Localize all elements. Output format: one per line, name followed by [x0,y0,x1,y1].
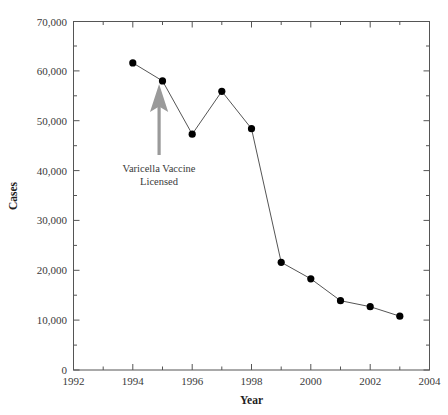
data-point [278,259,285,266]
annotation-line-2: Licensed [140,176,179,187]
y-tick-label: 20,000 [37,264,68,276]
y-tick-label: 50,000 [37,115,68,127]
data-series-markers [129,59,403,320]
x-tick-label: 1994 [122,375,145,387]
y-axis-minor-ticks [74,46,78,345]
data-point [337,297,344,304]
data-point [367,303,374,310]
x-tick-label: 1996 [181,375,204,387]
y-tick-label: 30,000 [37,214,68,226]
data-series-line [133,63,400,316]
y-tick-label: 40,000 [37,165,68,177]
right-axis-ticks [424,46,430,370]
data-point [159,77,166,84]
data-point [129,59,136,66]
x-tick-label: 1992 [63,375,85,387]
y-tick-label: 70,000 [37,16,68,28]
up-arrow-icon [150,84,168,155]
plot-frame [74,22,430,371]
chart-canvas: 0 10,000 20,000 30,000 40,000 50,000 60,… [0,0,448,415]
annotation-line-1: Varicella Vaccine [123,163,196,174]
data-point [307,275,314,282]
x-axis-title: Year [240,394,263,406]
data-point [189,131,196,138]
x-tick-label: 2004 [419,375,442,387]
y-tick-label: 10,000 [37,314,68,326]
y-axis-tick-labels: 0 10,000 20,000 30,000 40,000 50,000 60,… [37,16,68,377]
data-point [248,125,255,132]
top-axis-ticks [103,22,400,28]
x-tick-label: 1998 [241,375,264,387]
x-tick-label: 2002 [359,375,381,387]
y-axis-title: Cases [7,181,19,210]
x-tick-label: 2000 [300,375,323,387]
y-tick-label: 60,000 [37,65,68,77]
x-axis-tick-labels: 1992 1994 1996 1998 2000 2002 2004 [63,375,442,387]
data-point [396,313,403,320]
varicella-cases-line-chart: 0 10,000 20,000 30,000 40,000 50,000 60,… [0,0,448,415]
x-axis-major-ticks [74,364,430,370]
data-point [218,88,225,95]
